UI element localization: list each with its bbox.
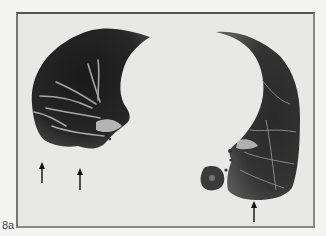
left-lung [32, 28, 150, 148]
arrow-indicators [39, 162, 257, 222]
right-lung [201, 32, 300, 200]
figure-label: 8a [2, 219, 14, 231]
arrow-up-icon [251, 201, 257, 222]
arrow-up-icon [39, 162, 45, 183]
ct-scan-image [0, 0, 326, 236]
arrow-up-icon [77, 168, 83, 190]
